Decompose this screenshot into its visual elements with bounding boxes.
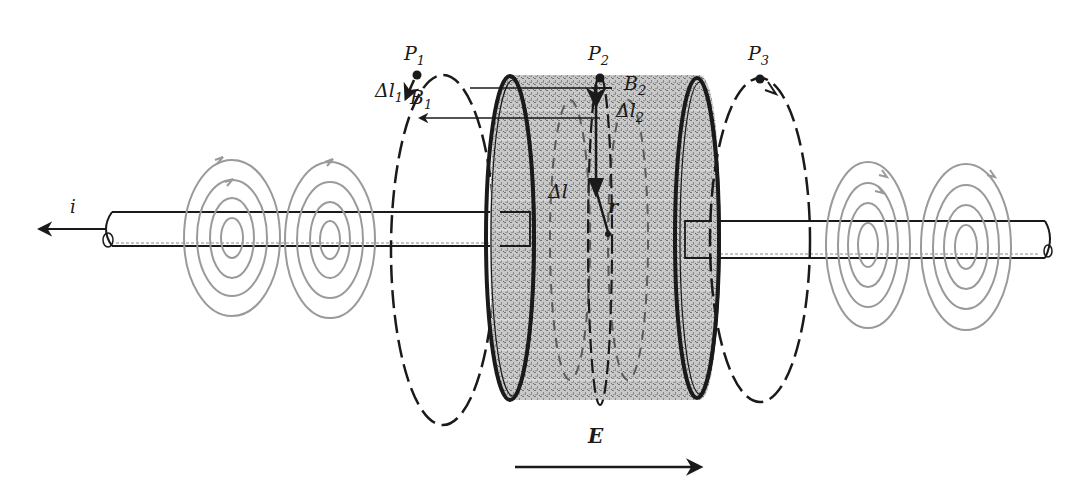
left-wire bbox=[103, 212, 500, 247]
magnetic-field-rings-left-1 bbox=[184, 157, 280, 316]
label-p1: P1 bbox=[403, 42, 425, 68]
amperian-loop-p3 bbox=[710, 78, 810, 402]
current-label: i bbox=[70, 196, 76, 217]
magnetic-field-rings-right-1 bbox=[826, 162, 910, 328]
label-dl1: Δl1 bbox=[374, 79, 403, 105]
magnetic-field-rings-left-2 bbox=[285, 159, 375, 318]
point-p3-marker bbox=[756, 75, 765, 84]
label-dl: Δl bbox=[547, 180, 568, 202]
label-p2: P2 bbox=[587, 42, 609, 68]
label-e: E bbox=[587, 424, 604, 448]
current-arrow: i bbox=[40, 196, 105, 229]
capacitor-displacement-current-diagram: i bbox=[0, 0, 1083, 504]
point-p1-marker bbox=[413, 71, 422, 80]
label-p3: P3 bbox=[747, 42, 769, 68]
electric-field-arrow: E bbox=[515, 424, 700, 467]
magnetic-field-rings-right-2 bbox=[921, 164, 1011, 330]
point-p2-marker bbox=[596, 74, 605, 83]
amperian-loop-p1 bbox=[391, 75, 495, 425]
